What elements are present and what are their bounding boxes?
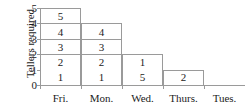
bar-cell-fri-1: 1	[41, 70, 80, 85]
bar-column-thurs[interactable]: 2	[163, 70, 204, 85]
bar-cell-fri-2: 2	[41, 54, 80, 69]
x-axis-line	[40, 85, 245, 86]
x-tick-label-mon: Mon.	[81, 91, 122, 105]
y-tick-label-4: 4	[27, 17, 37, 29]
x-tick-label-tues: Tues.	[204, 91, 245, 105]
bar-cell-mon-1: 1	[82, 70, 121, 85]
x-tick-label-wed: Wed.	[122, 91, 163, 105]
x-tick-mark-0	[40, 85, 41, 89]
x-tick-label-fri: Fri.	[40, 91, 81, 105]
bar-cell-thurs-1: 2	[164, 70, 203, 85]
bar-column-fri[interactable]: 1 2 3 4 5	[40, 8, 81, 85]
bar-cell-wed-1: 5	[123, 70, 162, 85]
bar-cell-fri-4: 4	[41, 23, 80, 38]
bar-cell-fri-3: 3	[41, 39, 80, 54]
x-tick-mark-4	[204, 85, 205, 89]
bar-column-wed[interactable]: 5 1	[122, 54, 163, 85]
bar-cell-wed-2: 1	[123, 54, 162, 69]
bar-cell-fri-5: 5	[41, 8, 80, 23]
chart-container: Tellers required 5 4 3 2 1 0 1 2 3 4 5 1…	[0, 0, 249, 107]
x-tick-mark-1	[81, 85, 82, 89]
y-tick-label-2: 2	[27, 48, 37, 60]
bar-column-mon[interactable]: 1 2 3 4	[81, 23, 122, 85]
y-tick-label-0: 0	[27, 79, 37, 91]
y-tick-label-3: 3	[27, 33, 37, 45]
y-tick-label-5: 5	[27, 2, 37, 14]
x-tick-mark-3	[163, 85, 164, 89]
bar-cell-mon-3: 3	[82, 39, 121, 54]
bar-cell-mon-2: 2	[82, 54, 121, 69]
x-tick-label-thurs: Thurs.	[163, 91, 204, 105]
y-tick-label-1: 1	[27, 64, 37, 76]
x-tick-mark-2	[122, 85, 123, 89]
plot-area: 1 2 3 4 5 1 2 3 4 5 1 2	[40, 8, 245, 85]
bar-cell-mon-4: 4	[82, 23, 121, 38]
